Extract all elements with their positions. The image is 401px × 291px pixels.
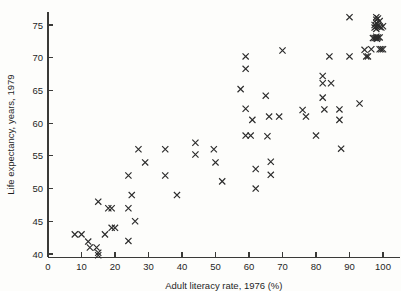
data-point [174, 192, 180, 198]
data-point [336, 106, 342, 112]
data-point [253, 166, 259, 172]
data-point [162, 172, 168, 178]
data-point [109, 225, 115, 231]
data-point [142, 159, 148, 165]
y-axis-title: Life expectancy, years, 1979 [5, 74, 16, 194]
data-point [320, 80, 326, 86]
y-tick-label: 50 [32, 183, 43, 194]
data-point [132, 218, 138, 224]
y-tick-label: 55 [32, 150, 43, 161]
data-point [212, 159, 218, 165]
data-point [238, 86, 244, 92]
y-tick-label: 45 [32, 216, 43, 227]
data-point [276, 114, 282, 120]
data-point [264, 133, 270, 139]
data-point [320, 73, 326, 79]
x-tick-label: 80 [311, 261, 322, 272]
x-axis-ticks: 0102030405060708090100 [45, 252, 391, 272]
data-point [243, 66, 249, 72]
data-point [356, 100, 362, 106]
data-point [243, 106, 249, 112]
data-point [300, 107, 306, 113]
data-point [248, 132, 254, 138]
x-tick-label: 100 [375, 261, 391, 272]
data-point [129, 192, 135, 198]
data-point [135, 146, 141, 152]
data-point [303, 114, 309, 120]
data-point [279, 47, 285, 53]
data-point [125, 172, 131, 178]
x-tick-label: 20 [110, 261, 121, 272]
y-axis-ticks: 4045505560657075 [32, 20, 53, 260]
scatter-chart-figure: 4045505560657075 0102030405060708090100 … [0, 0, 401, 291]
scatter-plot-canvas: 4045505560657075 0102030405060708090100 … [0, 0, 401, 291]
data-point [243, 53, 249, 59]
x-tick-label: 40 [177, 261, 188, 272]
data-point [336, 117, 342, 123]
data-point [268, 172, 274, 178]
x-tick-label: 60 [244, 261, 255, 272]
data-point [338, 146, 344, 152]
x-tick-label: 50 [210, 261, 221, 272]
y-tick-label: 75 [32, 20, 43, 31]
y-tick-label: 70 [32, 52, 43, 63]
x-tick-label: 10 [76, 261, 87, 272]
data-point [192, 151, 198, 157]
data-point [72, 231, 78, 237]
data-point [268, 159, 274, 165]
data-point [313, 132, 319, 138]
data-point [109, 205, 115, 211]
data-point [112, 225, 118, 231]
data-point [192, 140, 198, 146]
data-point [105, 205, 111, 211]
data-point [95, 199, 101, 205]
x-tick-label: 70 [277, 261, 288, 272]
x-tick-label: 0 [45, 261, 50, 272]
data-point [249, 117, 255, 123]
data-point [346, 53, 352, 59]
data-point [125, 205, 131, 211]
data-point [93, 244, 99, 250]
data-point [85, 238, 91, 244]
data-point [328, 80, 334, 86]
data-point [102, 231, 108, 237]
data-point-markers [72, 14, 386, 258]
x-tick-label: 30 [143, 261, 154, 272]
data-point [321, 106, 327, 112]
x-tick-label: 90 [344, 261, 355, 272]
data-point [368, 46, 374, 52]
data-point [162, 146, 168, 152]
data-point [326, 53, 332, 59]
data-point [87, 244, 93, 250]
x-axis-title: Adult literacy rate, 1976 (%) [165, 280, 282, 291]
data-point [361, 47, 367, 53]
data-point [266, 114, 272, 120]
data-point [320, 95, 326, 101]
y-tick-label: 65 [32, 85, 43, 96]
data-point [211, 146, 217, 152]
data-point [253, 185, 259, 191]
y-tick-label: 40 [32, 249, 43, 260]
data-point [346, 14, 352, 20]
data-point [219, 178, 225, 184]
data-point [125, 238, 131, 244]
data-point [263, 93, 269, 99]
y-tick-label: 60 [32, 118, 43, 129]
data-point [78, 231, 84, 237]
